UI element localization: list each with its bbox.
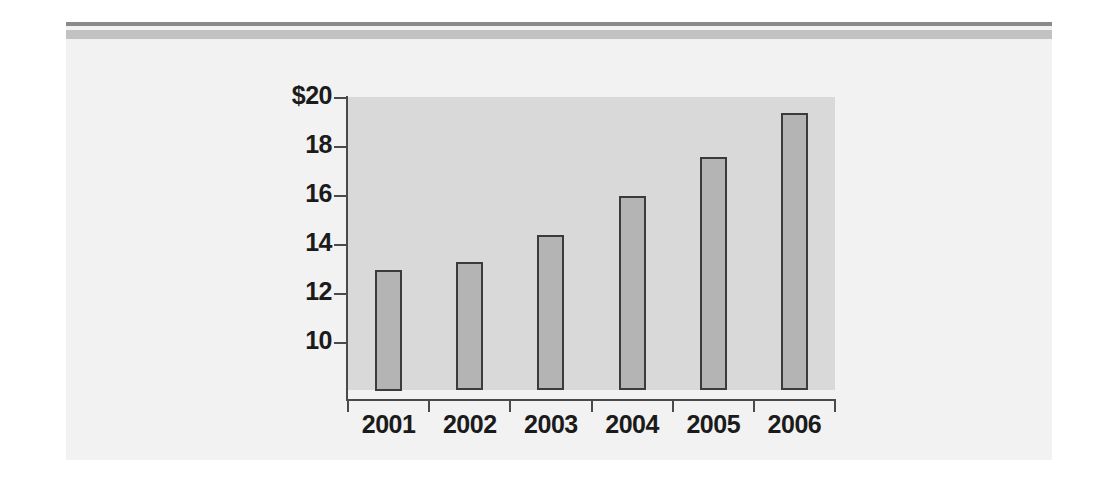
y-axis-tick-label: 12: [305, 277, 332, 306]
y-axis-tick: [334, 342, 346, 344]
y-axis-tick-label: 16: [305, 179, 332, 208]
y-axis-tick: [334, 195, 346, 197]
bar-2006: [781, 113, 808, 390]
y-axis-tick-label: 10: [305, 326, 332, 355]
bar-2005: [700, 157, 727, 390]
y-axis-tick: [334, 97, 346, 99]
bar-2001: [375, 270, 402, 391]
y-axis-tick-label: $20: [292, 81, 332, 110]
y-axis-labels: $201816141210: [200, 0, 332, 490]
y-axis-line: [346, 96, 348, 401]
bar-2004: [619, 196, 646, 390]
bar-2002: [456, 262, 483, 390]
y-axis-tick-label: 14: [305, 228, 332, 257]
bar-2003: [537, 235, 564, 390]
chart-figure: $201816141210 200120022003200420052006: [0, 0, 1118, 490]
y-axis-tick: [334, 293, 346, 295]
plot-area: [348, 97, 835, 390]
y-axis-tick: [334, 244, 346, 246]
x-axis-tick-label: 2006: [744, 410, 844, 439]
y-axis-tick-label: 18: [305, 130, 332, 159]
y-axis-tick: [334, 146, 346, 148]
